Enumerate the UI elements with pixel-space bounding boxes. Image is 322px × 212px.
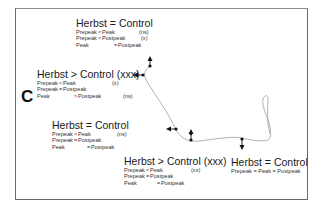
block-title: Herbst > Control (xxx)	[37, 68, 137, 80]
row-operator: =	[157, 180, 160, 186]
result-block-4: Herbst > Control (xxx) Prepeak < Peak (x…	[124, 155, 224, 186]
row-term-b: Postpeak	[161, 180, 184, 186]
row-term-b: Postpeak	[118, 42, 141, 48]
point-1-up-arrow	[148, 56, 153, 68]
row-term-a: Peak	[124, 180, 137, 186]
trajectory-curve	[145, 66, 271, 141]
block-title: Herbst = Control	[76, 17, 156, 29]
row-operator: >	[74, 93, 77, 99]
point-3-left-arrow	[166, 127, 178, 132]
row-significance: (ns)	[123, 93, 133, 99]
comparison-row: Peak > Postpeak (ns)	[37, 93, 137, 99]
row-term-b: Postpeak	[91, 144, 114, 150]
row-term-a: Peak	[76, 42, 89, 48]
block-title: Herbst > Control (xxx)	[124, 155, 224, 167]
result-block-2: Herbst > Control (xxx) Prepeak < Peak (x…	[37, 68, 137, 99]
row-term-a: Peak	[37, 93, 50, 99]
result-block-5: Herbst = Control Prepeak = Peak = Postpe…	[231, 156, 311, 174]
point-5-down-arrow	[240, 137, 245, 150]
summary-row: Prepeak = Peak = Postpeak	[231, 168, 311, 174]
result-block-1: Herbst = Control Prepeak < Peak (ns) Pre…	[76, 17, 156, 48]
row-operator: =	[114, 42, 117, 48]
block-title: Herbst = Control	[52, 119, 137, 131]
comparison-row: Peak = Postpeak	[76, 42, 156, 48]
row-summary: Prepeak = Peak = Postpeak	[231, 168, 301, 174]
row-term-a: Peak	[52, 144, 65, 150]
result-block-3: Herbst = Control Prepeak < Peak (ns) Pre…	[52, 119, 137, 150]
block-title: Herbst = Control	[231, 156, 311, 168]
row-term-b: Postpeak	[78, 93, 101, 99]
comparison-row: Peak = Postpeak	[124, 180, 224, 186]
point-4-updown-arrow	[189, 129, 194, 142]
comparison-row: Peak = Postpeak	[52, 144, 137, 150]
row-operator: =	[87, 144, 90, 150]
